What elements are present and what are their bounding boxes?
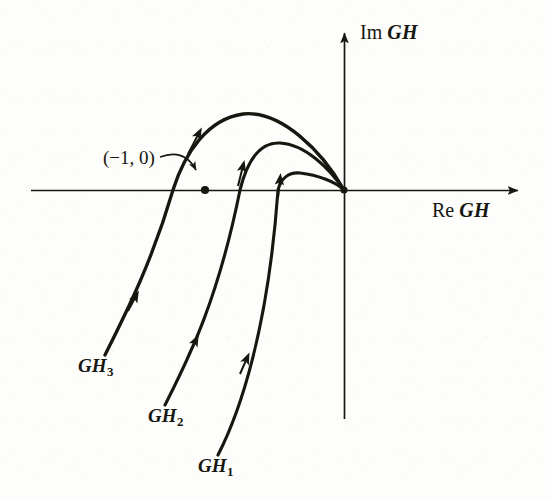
nyquist-plot-figure: ImGH ReGH (−1, 0) GH3 GH2 GH1 (0, 0, 551, 501)
curve-gh2-arrowhead-lower (188, 340, 196, 356)
real-axis-label: ReGH (432, 200, 490, 220)
critical-point-dot (201, 186, 209, 194)
curve-gh1-arrowhead-lower (240, 358, 247, 374)
curve-gh2 (165, 143, 344, 405)
curve-gh2-path (165, 143, 344, 405)
real-axis-label-roman: Re (432, 199, 454, 221)
curve-gh1-arrowhead-upper (278, 179, 280, 198)
curve-label-gh1-name: GH (198, 455, 227, 476)
curve-gh1 (218, 173, 344, 455)
plot-canvas (0, 0, 551, 501)
curve-label-gh3-name: GH (78, 355, 107, 376)
curve-label-gh3-subscript: 3 (107, 364, 114, 379)
curve-label-gh1-subscript: 1 (227, 464, 234, 479)
curve-label-gh2-name: GH (148, 405, 177, 426)
curve-gh1-path (218, 173, 344, 455)
imaginary-axis-label: ImGH (360, 22, 418, 42)
critical-point-label: (−1, 0) (103, 148, 155, 167)
curve-label-gh1: GH1 (198, 456, 233, 479)
imaginary-axis-label-italic: GH (387, 21, 418, 43)
real-axis-label-italic: GH (459, 199, 490, 221)
critical-point-leader-arrow (160, 154, 196, 170)
curve-label-gh2: GH2 (148, 406, 183, 429)
origin-marker (340, 186, 347, 193)
curve-label-gh3: GH3 (78, 356, 113, 379)
imaginary-axis-label-roman: Im (360, 21, 382, 43)
curve-label-gh2-subscript: 2 (177, 414, 184, 429)
